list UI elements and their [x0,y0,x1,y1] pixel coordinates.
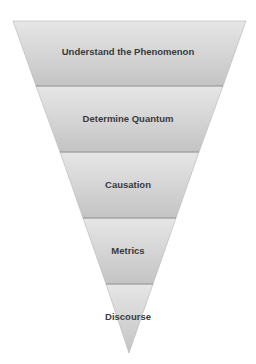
stage-label-causation: Causation [0,179,256,191]
stage-label-understand: Understand the Phenomenon [0,46,256,58]
stage-label-discourse: Discourse [0,311,256,323]
stage-label-metrics: Metrics [0,245,256,257]
stage-label-quantum: Determine Quantum [0,113,256,125]
